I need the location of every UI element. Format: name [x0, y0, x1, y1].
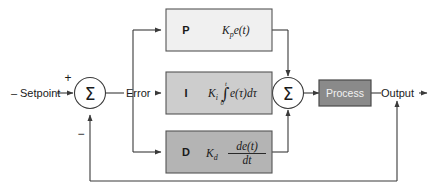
i-block-label: I	[184, 87, 187, 99]
sigma-symbol-controller: Σ	[283, 84, 294, 104]
integral-block[interactable]: I Ki ∫ t 0 e(τ)dτ	[166, 72, 272, 114]
process-block[interactable]: Process	[319, 80, 371, 106]
minus-sign-label: −	[77, 127, 84, 141]
process-block-label: Process	[326, 87, 364, 99]
proportional-block[interactable]: P Kpe(t)	[166, 9, 272, 51]
pid-block-diagram: Σ Σ P Kpe(t) I Ki ∫ t 0 e(τ)dτ	[0, 0, 437, 196]
p-block-label: P	[182, 24, 189, 36]
output-label: Output	[381, 87, 414, 99]
plus-sign-label: +	[64, 71, 71, 85]
setpoint-dash: –	[11, 87, 18, 99]
setpoint-label: Setpoint	[20, 87, 60, 99]
integral-upper-limit: t	[225, 80, 227, 87]
i-block-integrand: e(τ)dτ	[230, 87, 258, 100]
diagram-canvas: Σ Σ P Kpe(t) I Ki ∫ t 0 e(τ)dτ	[0, 0, 437, 196]
input-summing-junction: Σ	[75, 78, 106, 109]
controller-summing-junction: Σ	[273, 78, 304, 109]
derivative-block[interactable]: D Kd de(t) dt	[166, 131, 272, 173]
d-block-denominator: dt	[243, 154, 253, 166]
d-block-numerator: de(t)	[236, 140, 258, 153]
error-label: Error	[126, 87, 151, 99]
sigma-symbol-input: Σ	[85, 84, 96, 104]
d-block-label: D	[182, 146, 190, 158]
